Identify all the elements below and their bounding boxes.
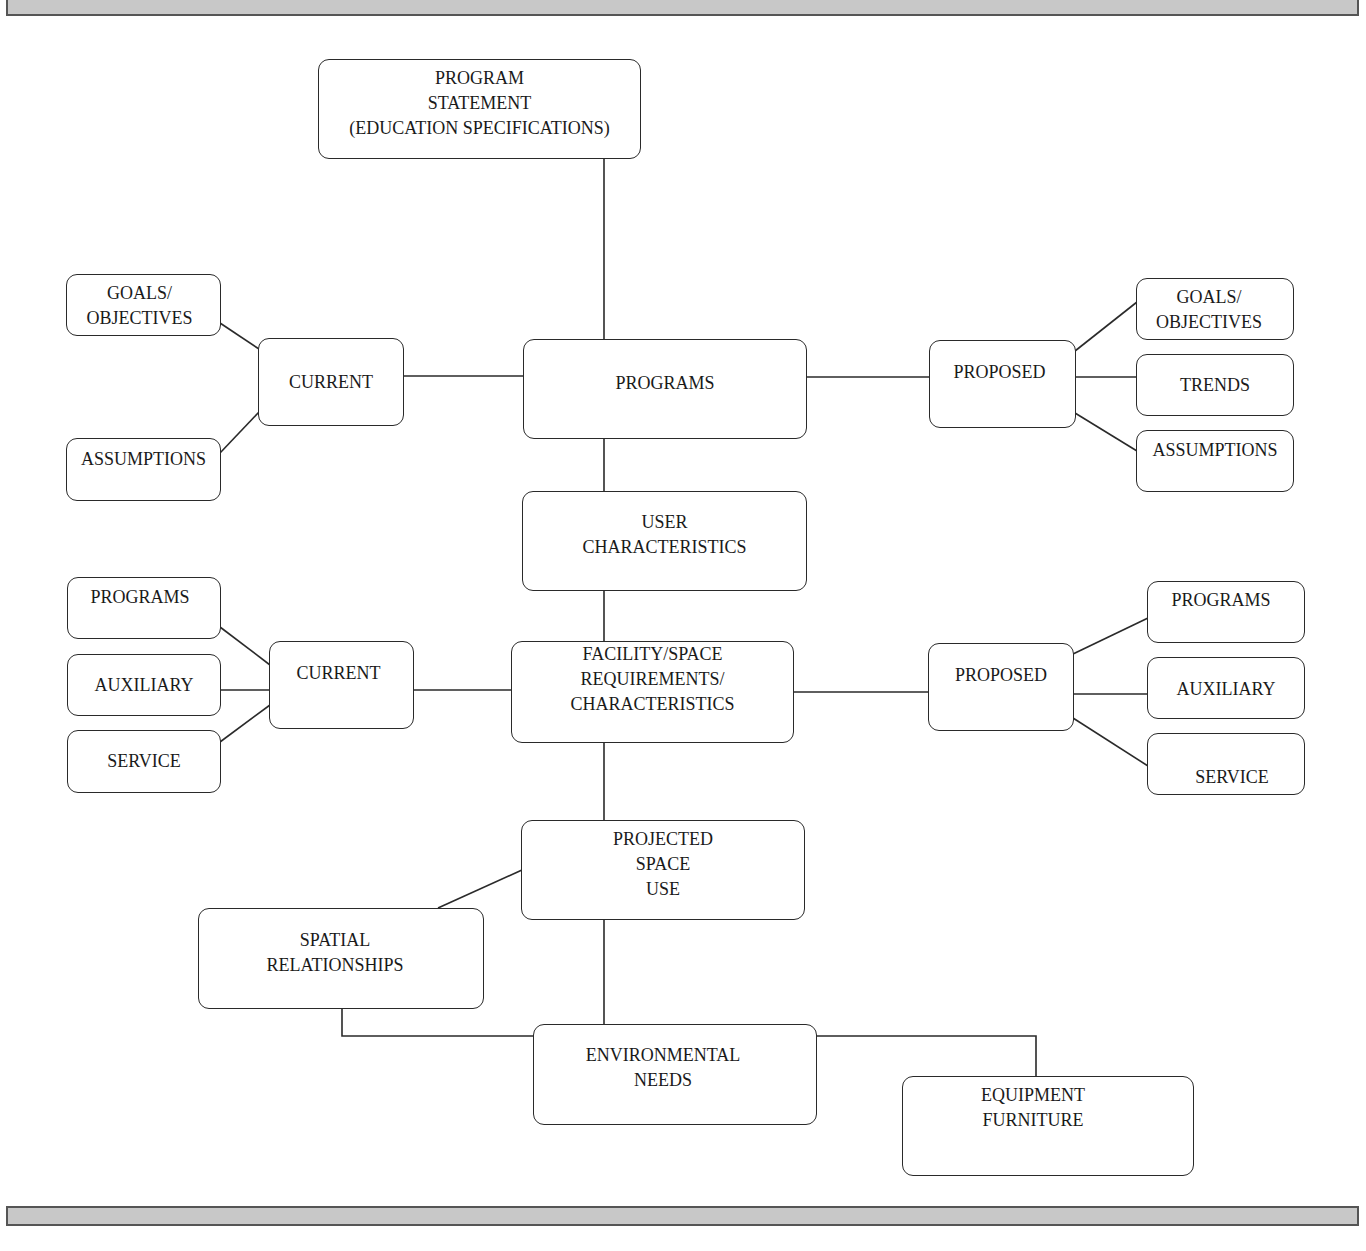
facility-current-programs-box: PROGRAMS <box>67 577 221 639</box>
facility-space-label: FACILITY/SPACE REQUIREMENTS/ CHARACTERIS… <box>512 642 793 717</box>
programs-label: PROGRAMS <box>524 371 806 396</box>
facility-current-label: CURRENT <box>264 661 413 686</box>
programs-proposed-goals-label: GOALS/ OBJECTIVES <box>1125 285 1293 335</box>
facility-proposed-box: PROPOSED <box>928 643 1074 731</box>
programs-current-assumptions-box: ASSUMPTIONS <box>66 438 221 501</box>
facility-current-auxiliary-label: AUXILIARY <box>68 673 220 698</box>
projected-space-use-label: PROJECTED SPACE USE <box>522 827 804 902</box>
facility-current-service-label: SERVICE <box>68 749 220 774</box>
programs-proposed-label: PROPOSED <box>924 360 1075 385</box>
program-statement-label: PROGRAM STATEMENT (EDUCATION SPECIFICATI… <box>319 66 640 141</box>
facility-proposed-service-box: SERVICE <box>1147 733 1305 795</box>
programs-proposed-box: PROPOSED <box>929 340 1076 428</box>
programs-current-assumptions-label: ASSUMPTIONS <box>67 447 220 472</box>
user-characteristics-label: USER CHARACTERISTICS <box>523 510 806 560</box>
programs-current-goals-label: GOALS/ OBJECTIVES <box>59 281 220 331</box>
facility-proposed-auxiliary-label: AUXILIARY <box>1148 677 1304 702</box>
facility-current-programs-label: PROGRAMS <box>60 585 220 610</box>
facility-space-box: FACILITY/SPACE REQUIREMENTS/ CHARACTERIS… <box>511 641 794 743</box>
footer-bar <box>6 1206 1359 1226</box>
facility-proposed-programs-box: PROGRAMS <box>1147 581 1305 643</box>
equipment-furniture-box: EQUIPMENT FURNITURE <box>902 1076 1194 1176</box>
facility-current-auxiliary-box: AUXILIARY <box>67 654 221 716</box>
facility-current-box: CURRENT <box>269 641 414 729</box>
programs-current-box: CURRENT <box>258 338 404 426</box>
environmental-needs-label: ENVIRONMENTAL NEEDS <box>510 1043 816 1093</box>
facility-proposed-auxiliary-box: AUXILIARY <box>1147 657 1305 719</box>
facility-proposed-label: PROPOSED <box>929 663 1073 688</box>
programs-current-goals-box: GOALS/ OBJECTIVES <box>66 274 221 336</box>
programs-proposed-assumptions-label: ASSUMPTIONS <box>1137 438 1293 463</box>
facility-proposed-service-label: SERVICE <box>1160 765 1304 790</box>
programs-box: PROGRAMS <box>523 339 807 439</box>
user-characteristics-box: USER CHARACTERISTICS <box>522 491 807 591</box>
program-statement-box: PROGRAM STATEMENT (EDUCATION SPECIFICATI… <box>318 59 641 159</box>
programs-proposed-assumptions-box: ASSUMPTIONS <box>1136 430 1294 492</box>
spatial-relationships-label: SPATIAL RELATIONSHIPS <box>187 928 483 978</box>
facility-proposed-programs-label: PROGRAMS <box>1138 588 1304 613</box>
projected-space-use-box: PROJECTED SPACE USE <box>521 820 805 920</box>
programs-proposed-trends-box: TRENDS <box>1136 354 1294 416</box>
programs-current-label: CURRENT <box>259 370 403 395</box>
programs-proposed-goals-box: GOALS/ OBJECTIVES <box>1136 278 1294 340</box>
spatial-relationships-box: SPATIAL RELATIONSHIPS <box>198 908 484 1009</box>
environmental-needs-box: ENVIRONMENTAL NEEDS <box>533 1024 817 1125</box>
programs-proposed-trends-label: TRENDS <box>1137 373 1293 398</box>
facility-current-service-box: SERVICE <box>67 730 221 793</box>
equipment-furniture-label: EQUIPMENT FURNITURE <box>873 1083 1193 1133</box>
